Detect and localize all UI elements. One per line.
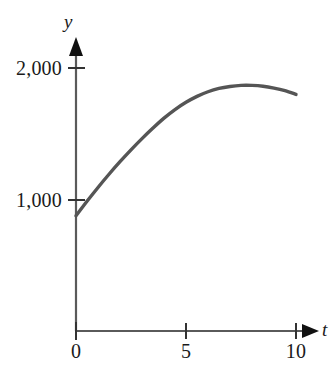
- y-axis-arrowhead: [69, 37, 83, 56]
- chart-figure: 2,000 1,000 0 5 10 y t: [0, 0, 334, 369]
- x-tick-label-5: 5: [166, 341, 206, 361]
- y-tick-label-1000: 1,000: [6, 190, 62, 210]
- x-tick-label-10: 10: [276, 341, 316, 361]
- chart-plot-area: [0, 0, 334, 369]
- x-axis-arrowhead: [302, 324, 319, 338]
- y-tick-label-2000: 2,000: [6, 58, 62, 78]
- y-axis-name-label: y: [64, 12, 72, 31]
- x-tick-label-0: 0: [56, 341, 96, 361]
- data-series-curve: [76, 85, 296, 216]
- x-axis-name-label: t: [322, 320, 327, 339]
